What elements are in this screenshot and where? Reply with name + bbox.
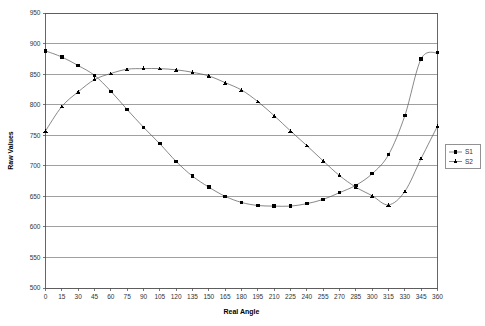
marker-S1-45 xyxy=(93,74,96,77)
marker-S1-90 xyxy=(142,126,145,129)
marker-S1-150 xyxy=(207,185,210,188)
y-tick-label-900: 900 xyxy=(30,40,41,47)
x-tick-label-360: 360 xyxy=(432,293,443,300)
marker-S2-345 xyxy=(419,156,423,160)
x-tick-label-0: 0 xyxy=(44,293,48,300)
marker-S2-180 xyxy=(239,88,243,92)
y-tick-label-950: 950 xyxy=(30,9,41,16)
x-tick-label-60: 60 xyxy=(107,293,115,300)
marker-S1-210 xyxy=(272,204,275,207)
marker-S1-30 xyxy=(76,64,79,67)
y-tick-label-600: 600 xyxy=(30,223,41,230)
x-tick-label-135: 135 xyxy=(187,293,198,300)
marker-S1-75 xyxy=(125,108,128,111)
x-tick-label-165: 165 xyxy=(220,293,231,300)
x-tick-label-315: 315 xyxy=(383,293,394,300)
x-tick-label-195: 195 xyxy=(252,293,263,300)
marker-S1-180 xyxy=(240,201,243,204)
marker-S2-360 xyxy=(435,124,439,128)
y-tick-label-850: 850 xyxy=(30,71,41,78)
x-tick-label-45: 45 xyxy=(91,293,99,300)
y-axis-tick-labels: 500550600650700750800850900950 xyxy=(30,9,46,291)
marker-S1-135 xyxy=(191,174,194,177)
marker-S2-300 xyxy=(370,194,374,198)
legend-label-S1: S1 xyxy=(465,148,473,155)
x-tick-label-240: 240 xyxy=(301,293,312,300)
marker-S1-270 xyxy=(338,191,341,194)
x-tick-label-210: 210 xyxy=(269,293,280,300)
x-tick-label-285: 285 xyxy=(350,293,361,300)
marker-S1-345 xyxy=(419,57,422,60)
marker-S1-330 xyxy=(403,114,406,117)
x-tick-label-180: 180 xyxy=(236,293,247,300)
marker-S1-255 xyxy=(321,198,324,201)
legend[interactable]: S1S2 xyxy=(446,145,481,169)
marker-S1-165 xyxy=(223,195,226,198)
marker-S1-0 xyxy=(44,49,47,52)
x-tick-label-150: 150 xyxy=(203,293,214,300)
marker-S2-165 xyxy=(223,80,227,84)
x-tick-label-225: 225 xyxy=(285,293,296,300)
x-tick-label-345: 345 xyxy=(416,293,427,300)
x-tick-label-15: 15 xyxy=(58,293,66,300)
legend-marker-S1 xyxy=(454,150,457,153)
x-tick-label-330: 330 xyxy=(399,293,410,300)
marker-S1-360 xyxy=(436,51,439,54)
x-axis-title: Real Angle xyxy=(224,308,260,316)
x-tick-label-300: 300 xyxy=(367,293,378,300)
x-tick-label-30: 30 xyxy=(75,293,83,300)
marker-S1-60 xyxy=(109,90,112,93)
y-tick-label-650: 650 xyxy=(30,193,41,200)
legend-box xyxy=(446,145,481,169)
marker-S1-240 xyxy=(305,202,308,205)
chart-container: 500550600650700750800850900950 015304560… xyxy=(0,0,485,326)
marker-S1-300 xyxy=(370,172,373,175)
y-tick-label-500: 500 xyxy=(30,284,41,291)
x-tick-label-75: 75 xyxy=(124,293,132,300)
y-tick-label-800: 800 xyxy=(30,101,41,108)
marker-S1-195 xyxy=(256,204,259,207)
plot-frame xyxy=(46,13,438,288)
marker-S1-225 xyxy=(289,204,292,207)
marker-S1-105 xyxy=(158,142,161,145)
marker-S1-15 xyxy=(60,55,63,58)
legend-label-S2: S2 xyxy=(465,158,473,165)
gridlines xyxy=(46,13,438,288)
x-tick-label-255: 255 xyxy=(318,293,329,300)
y-axis-title: Raw Values xyxy=(7,131,14,170)
series-S2 xyxy=(43,66,439,206)
y-tick-label-700: 700 xyxy=(30,162,41,169)
data-series xyxy=(43,49,439,208)
marker-S2-330 xyxy=(403,189,407,193)
x-axis-tick-labels: 0153045607590105120135150165180195210225… xyxy=(44,293,444,300)
marker-S1-315 xyxy=(387,153,390,156)
x-tick-label-270: 270 xyxy=(334,293,345,300)
series-S1 xyxy=(44,49,439,208)
marker-S1-120 xyxy=(174,160,177,163)
x-tick-label-105: 105 xyxy=(154,293,165,300)
x-tick-label-90: 90 xyxy=(140,293,148,300)
chart-canvas: 500550600650700750800850900950 015304560… xyxy=(0,0,485,326)
y-tick-label-750: 750 xyxy=(30,132,41,139)
x-tick-label-120: 120 xyxy=(171,293,182,300)
y-tick-label-550: 550 xyxy=(30,254,41,261)
marker-S2-45 xyxy=(92,77,96,81)
marker-S2-0 xyxy=(43,129,47,133)
